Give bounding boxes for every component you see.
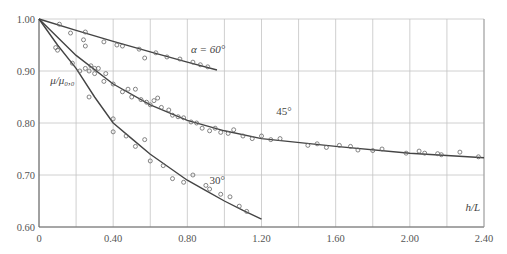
data-point bbox=[417, 149, 421, 153]
y-tick-label: 1.00 bbox=[17, 14, 35, 25]
data-point bbox=[83, 44, 87, 48]
x-tick-label: 0.40 bbox=[104, 233, 122, 244]
data-point bbox=[237, 204, 241, 208]
x-tick-labels: 00.400.801.201.602.002.40 bbox=[36, 233, 493, 244]
data-point bbox=[82, 38, 86, 42]
chart: 00.400.801.201.602.002.40 0.600.700.800.… bbox=[0, 0, 507, 254]
grid bbox=[39, 19, 484, 227]
data-point bbox=[171, 177, 175, 181]
data-point bbox=[102, 40, 106, 44]
annotation-label: α = 60° bbox=[191, 43, 226, 55]
annotation-label: μ/μ₀,₀ bbox=[49, 74, 75, 86]
data-point bbox=[104, 72, 108, 76]
x-tick-label: 0.80 bbox=[178, 233, 196, 244]
x-tick-label: 1.60 bbox=[326, 233, 344, 244]
x-tick-label: 2.00 bbox=[401, 233, 419, 244]
data-point bbox=[143, 56, 147, 60]
y-tick-label: 0.90 bbox=[17, 66, 35, 77]
data-point bbox=[204, 183, 208, 187]
data-point bbox=[102, 79, 106, 83]
data-points bbox=[54, 22, 481, 213]
data-point bbox=[219, 130, 223, 134]
data-point bbox=[87, 95, 91, 99]
data-point bbox=[126, 87, 130, 91]
data-point bbox=[83, 66, 87, 70]
data-point bbox=[152, 99, 156, 103]
annotation-label: 45° bbox=[276, 105, 291, 117]
data-point bbox=[143, 138, 147, 142]
data-point bbox=[133, 144, 137, 148]
y-tick-label: 0.70 bbox=[17, 170, 35, 181]
data-point bbox=[156, 96, 160, 100]
y-tick-label: 0.80 bbox=[17, 118, 35, 129]
data-point bbox=[228, 195, 232, 199]
x-tick-label: 2.40 bbox=[475, 233, 493, 244]
x-tick-label: 1.20 bbox=[252, 233, 270, 244]
data-point bbox=[458, 150, 462, 154]
data-point bbox=[69, 31, 73, 35]
x-tick-label: 0 bbox=[36, 233, 41, 244]
data-point bbox=[167, 108, 171, 112]
y-tick-label: 0.60 bbox=[17, 222, 35, 233]
data-point bbox=[120, 90, 124, 94]
data-point bbox=[208, 187, 212, 191]
data-point bbox=[93, 72, 97, 76]
data-point bbox=[115, 43, 119, 47]
data-point bbox=[208, 129, 212, 133]
data-point bbox=[200, 126, 204, 130]
annotation-label: 30° bbox=[210, 174, 225, 186]
data-point bbox=[133, 87, 137, 91]
data-point bbox=[219, 192, 223, 196]
data-point bbox=[161, 164, 165, 168]
y-tick-labels: 0.600.700.800.901.00 bbox=[17, 14, 35, 233]
data-point bbox=[182, 180, 186, 184]
data-point bbox=[130, 95, 134, 99]
annotations: α = 60°45°30°μ/μ₀,₀h/L bbox=[49, 43, 480, 214]
data-point bbox=[232, 128, 236, 132]
annotation-label: h/L bbox=[465, 201, 480, 213]
